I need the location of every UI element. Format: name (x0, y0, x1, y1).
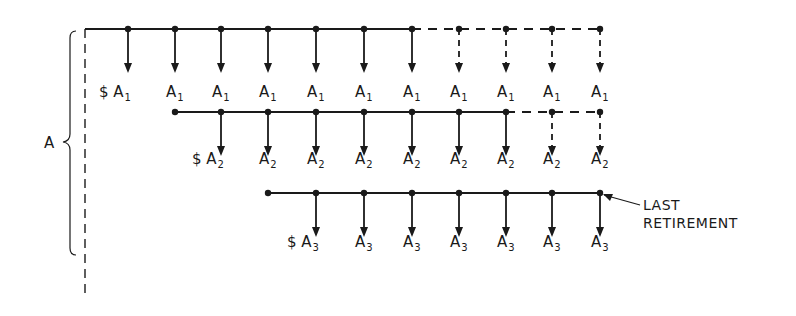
annuity-rows: $ A1A1A1A1A1A1A1A1A1A1A1$ A2A2A2A2A2A2A2… (85, 26, 609, 253)
arrowhead-icon (217, 63, 225, 73)
group-label: A (44, 134, 55, 152)
payment-label: A3 (355, 233, 373, 253)
group-brace-icon (63, 31, 76, 255)
payment-label: A1 (259, 83, 277, 103)
arrowhead-icon (217, 146, 225, 156)
payment-label: A1 (212, 83, 230, 103)
annuity-row3: $ A3A3A3A3A3A3A3 (265, 190, 609, 253)
payment-label: A3 (497, 233, 515, 253)
note-line1: LAST (643, 197, 680, 213)
arrowhead-icon (502, 63, 510, 73)
payment-label: A2 (355, 150, 373, 170)
payment-label: A1 (450, 83, 468, 103)
arrowhead-icon (408, 63, 416, 73)
payment-label: A2 (259, 150, 277, 170)
start-dot-icon (265, 190, 271, 196)
payment-label: A1 (307, 83, 325, 103)
payment-label: A1 (591, 83, 609, 103)
payment-label: A1 (166, 83, 184, 103)
annuity-row2: $ A2A2A2A2A2A2A2A2A2 (172, 109, 609, 170)
diagram-svg: A $ A1A1A1A1A1A1A1A1A1A1A1$ A2A2A2A2A2A2… (0, 0, 796, 316)
payment-label: A2 (307, 150, 325, 170)
start-dot-icon (172, 109, 178, 115)
payment-label: A2 (403, 150, 421, 170)
arrowhead-icon (124, 63, 132, 73)
note-line2: RETIREMENT (643, 215, 738, 231)
annuity-row1: $ A1A1A1A1A1A1A1A1A1A1A1 (85, 26, 609, 103)
payment-label: A2 (591, 150, 609, 170)
arrowhead-icon (455, 63, 463, 73)
payment-label: A1 (497, 83, 515, 103)
payment-label: A2 (450, 150, 468, 170)
payment-label: $ A1 (99, 83, 131, 103)
payment-label: A3 (591, 233, 609, 253)
arrowhead-icon (264, 63, 272, 73)
arrowhead-icon (171, 63, 179, 73)
payment-label: A2 (543, 150, 561, 170)
payment-label: A1 (403, 83, 421, 103)
payment-label: A3 (450, 233, 468, 253)
arrowhead-icon (548, 63, 556, 73)
payment-label: $ A3 (287, 233, 319, 253)
pointer-arrowhead-icon (603, 194, 613, 201)
arrowhead-icon (596, 63, 604, 73)
payment-label: A2 (497, 150, 515, 170)
arrowhead-icon (312, 63, 320, 73)
retirement-annuity-diagram: A $ A1A1A1A1A1A1A1A1A1A1A1$ A2A2A2A2A2A2… (0, 0, 796, 316)
payment-label: A1 (543, 83, 561, 103)
payment-label: A3 (543, 233, 561, 253)
payment-label: A1 (355, 83, 373, 103)
arrowhead-icon (360, 63, 368, 73)
arrowhead-icon (312, 227, 320, 237)
payment-label: A3 (403, 233, 421, 253)
payment-label: $ A2 (192, 150, 224, 170)
